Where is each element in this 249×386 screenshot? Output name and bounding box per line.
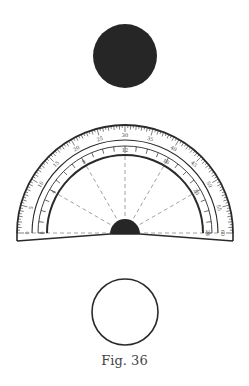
inner-tick — [102, 149, 103, 154]
outer-tick — [29, 184, 33, 186]
spoke-dashed — [57, 194, 110, 225]
outer-scale-label: 55 — [216, 204, 223, 212]
inner-scale-label: 24 — [205, 230, 211, 236]
outer-scale-label: 20 — [72, 144, 81, 152]
inner-tick — [45, 200, 50, 202]
outer-tick — [205, 163, 207, 165]
outer-tick — [196, 157, 201, 162]
outer-tick — [220, 189, 224, 191]
outer-tick — [223, 205, 230, 207]
outer-tick — [43, 163, 45, 165]
outer-tick — [176, 139, 180, 145]
inner-tick — [72, 164, 75, 168]
figure-canvas: 05101520253035404550556004812162024 — [0, 0, 249, 386]
outer-scale-label: 30 — [122, 132, 128, 138]
inner-tick — [204, 210, 209, 211]
outer-scale-label: 60 — [220, 230, 226, 236]
outer-tick — [76, 137, 78, 141]
outer-tick — [47, 159, 49, 161]
inner-tick — [190, 180, 194, 183]
inner-scale-label: 12 — [122, 147, 128, 153]
outer-tick — [71, 139, 75, 145]
outer-scale-label: 0 — [24, 231, 30, 234]
white-circle — [92, 279, 158, 345]
outer-tick — [26, 189, 30, 191]
inner-tick — [41, 210, 46, 211]
inner-tick — [183, 171, 187, 175]
outer-tick — [181, 142, 183, 146]
inner-tick — [114, 147, 115, 152]
outer-tick — [197, 155, 199, 157]
outer-tick — [186, 146, 189, 150]
outer-scale-label: 5 — [27, 205, 34, 210]
outer-scale-label: 10 — [36, 180, 44, 189]
inner-tick — [63, 171, 67, 175]
outer-tick — [202, 161, 205, 164]
outer-tick — [45, 161, 48, 164]
outer-tick — [194, 153, 197, 156]
outer-scale-label: 50 — [205, 180, 213, 189]
spoke-dashed — [134, 165, 165, 218]
inner-tick — [156, 153, 158, 158]
outer-tick — [62, 146, 65, 150]
spoke-dashed — [140, 194, 193, 225]
outer-tick — [212, 179, 218, 183]
protractor-base-edge — [17, 233, 233, 241]
inner-tick — [206, 222, 211, 223]
hub-semicircle — [110, 219, 140, 234]
inner-scale-label: 0 — [39, 231, 45, 234]
outer-tick — [66, 142, 68, 146]
black-disk — [93, 24, 157, 88]
outer-tick — [151, 129, 153, 136]
inner-tick — [146, 149, 147, 154]
outer-tick — [53, 153, 56, 156]
inner-tick — [201, 200, 206, 202]
outer-scale-label: 40 — [170, 144, 179, 152]
outer-tick — [212, 174, 216, 176]
outer-tick — [209, 170, 213, 173]
figure-caption: Fig. 36 — [0, 353, 249, 368]
inner-tick — [56, 180, 60, 183]
outer-tick — [190, 149, 193, 152]
outer-tick — [193, 151, 195, 153]
outer-tick — [21, 205, 28, 207]
spoke-dashed — [86, 165, 117, 218]
outer-tick — [31, 179, 37, 183]
outer-tick — [172, 137, 174, 141]
outer-tick — [97, 129, 99, 136]
outer-tick — [57, 149, 60, 152]
outer-tick — [51, 155, 53, 157]
outer-tick — [49, 157, 54, 162]
inner-tick — [92, 153, 94, 158]
outer-scale-label: 35 — [146, 135, 154, 142]
outer-scale-label: 25 — [96, 135, 104, 142]
inner-tick — [175, 164, 178, 168]
outer-tick — [81, 134, 83, 138]
outer-tick — [38, 170, 42, 173]
outer-tick — [41, 165, 44, 168]
inner-scale-label: 4 — [50, 189, 57, 195]
inner-tick — [39, 222, 44, 223]
outer-tick — [217, 184, 221, 186]
outer-tick — [55, 151, 57, 153]
protractor: 05101520253035404550556004812162024 — [17, 125, 233, 241]
outer-tick — [201, 159, 203, 161]
outer-tick — [167, 134, 169, 138]
outer-tick — [34, 174, 38, 176]
inner-tick — [136, 147, 137, 152]
outer-tick — [205, 165, 208, 168]
inner-scale-label: 8 — [81, 158, 87, 165]
